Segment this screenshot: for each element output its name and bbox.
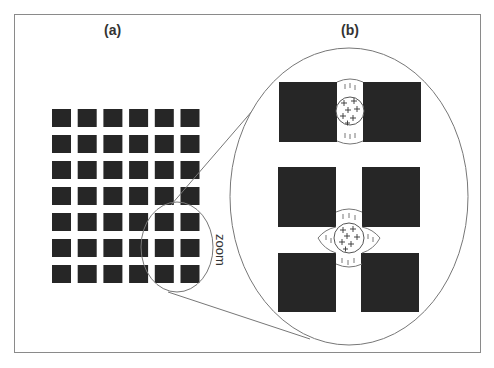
grid-square [78, 109, 97, 127]
magnified-square [361, 253, 419, 312]
diagram-canvas: zoom [0, 0, 494, 368]
grid-square [78, 213, 97, 231]
grid-square [103, 239, 122, 257]
grid-square [155, 239, 174, 257]
grid-square [129, 135, 148, 153]
zoom-region-ellipse [141, 202, 213, 292]
grid-square [103, 135, 122, 153]
grid-square [155, 161, 174, 179]
grid-square [78, 265, 97, 283]
grid-square [78, 135, 97, 153]
grid-square [129, 109, 148, 127]
grid-square [78, 161, 97, 179]
grid-square [129, 213, 148, 231]
grid-square [155, 135, 174, 153]
grid-square [52, 161, 71, 179]
grid-square [181, 265, 200, 283]
grid-square [181, 135, 200, 153]
magnified-square [279, 82, 337, 142]
grid-square [103, 109, 122, 127]
grid-square [181, 109, 200, 127]
grid-square [155, 265, 174, 283]
grid-square [181, 239, 200, 257]
magnified-ellipse [230, 48, 468, 345]
magnified-square [362, 167, 420, 227]
grid-square [52, 265, 71, 283]
grid-square [78, 239, 97, 257]
grid-square [103, 187, 122, 205]
grid-square [181, 213, 200, 231]
grid-square [103, 265, 122, 283]
grid-square [155, 213, 174, 231]
grid-square [129, 239, 148, 257]
grid-square [103, 213, 122, 231]
grid-square [181, 161, 200, 179]
grid-square [52, 135, 71, 153]
magnified-square [278, 167, 336, 227]
grid-square [78, 187, 97, 205]
grid-square [129, 187, 148, 205]
grid-square [52, 109, 71, 127]
zoom-label: zoom [213, 234, 228, 266]
grid-square [155, 109, 174, 127]
magnified-square [363, 82, 421, 142]
grid-square [52, 187, 71, 205]
grid-square [52, 213, 71, 231]
square-grid [52, 109, 200, 283]
grid-square [103, 161, 122, 179]
magnified-square [278, 253, 336, 312]
grid-square [129, 161, 148, 179]
grid-square [52, 239, 71, 257]
